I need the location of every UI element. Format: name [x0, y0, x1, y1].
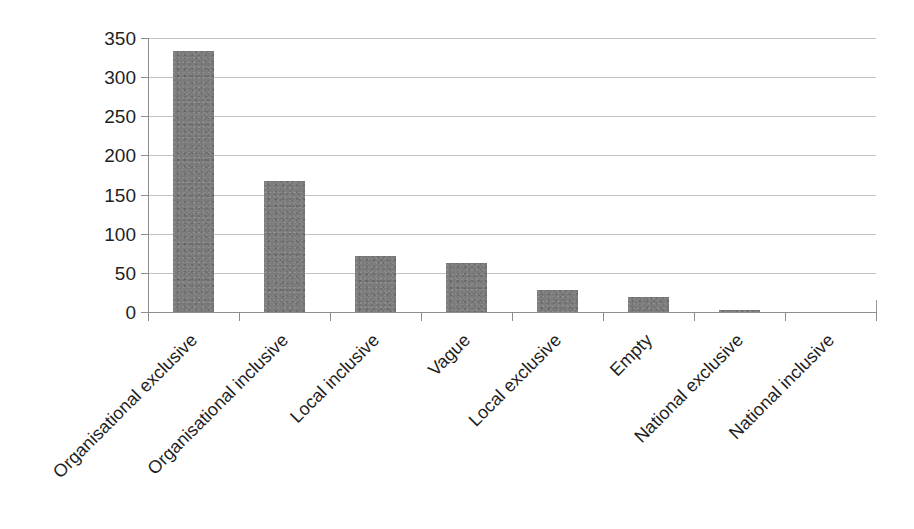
x-axis-category-label: Organisational exclusive: [3, 331, 200, 528]
x-axis-category-label: Local inclusive: [185, 331, 382, 528]
x-axis-category-label: Vague: [276, 331, 473, 528]
x-axis-category-label: National inclusive: [640, 331, 837, 528]
x-axis-labels: Organisational exclusiveOrganisational i…: [0, 0, 914, 529]
x-axis-category-label: Empty: [458, 331, 655, 528]
x-axis-category-label: National exclusive: [549, 331, 746, 528]
x-axis-category-label: Local exclusive: [367, 331, 564, 528]
x-axis-category-label: Organisational inclusive: [94, 331, 291, 528]
bar-chart: 050100150200250300350 Organisational exc…: [0, 0, 914, 529]
